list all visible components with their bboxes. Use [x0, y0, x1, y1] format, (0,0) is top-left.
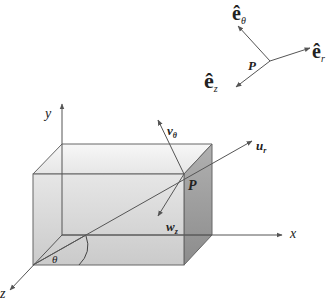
- point-p-label: P: [188, 178, 197, 193]
- box: [33, 144, 212, 265]
- y-axis-label: y: [43, 106, 52, 121]
- x-axis-label: x: [289, 226, 297, 241]
- e-theta-label: êθ: [232, 2, 246, 26]
- e-r-base: ê: [312, 40, 321, 62]
- box-front-face: [33, 174, 184, 265]
- w-z-base: w: [166, 219, 175, 234]
- e-z-base: ê: [204, 68, 214, 93]
- e-theta-sub: θ: [241, 15, 246, 26]
- e-r-sub: r: [321, 53, 325, 64]
- v-theta-sub: θ: [173, 131, 178, 140]
- z-axis-label: z: [0, 286, 6, 301]
- v-theta-label: vθ: [167, 123, 178, 140]
- inset-point-p-label: P: [248, 58, 257, 73]
- box-top-face: [33, 144, 212, 174]
- u-r-sub: r: [263, 146, 267, 155]
- e-theta-arrow: [238, 26, 270, 61]
- e-z-label: êz: [204, 68, 218, 94]
- diagram-canvas: y x z θ P vθ ur wz P êθ êr: [0, 0, 331, 303]
- e-r-arrow: [270, 48, 310, 61]
- theta-label: θ: [52, 253, 58, 265]
- e-theta-base: ê: [232, 2, 241, 24]
- u-r-label: ur: [256, 138, 267, 155]
- e-z-sub: z: [213, 83, 218, 94]
- e-r-label: êr: [312, 40, 325, 64]
- u-r-base: u: [256, 138, 263, 153]
- unit-vector-inset: P êθ êr êz: [204, 2, 325, 94]
